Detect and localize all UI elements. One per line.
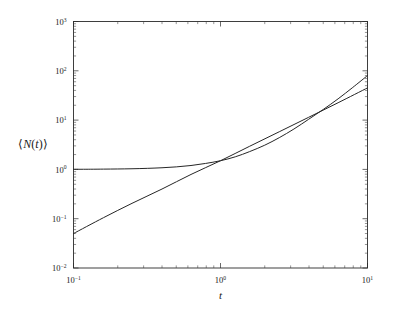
loglog-plot: 10−1100101 10310210110010−110−2 t ⟨N(t)⟩ [0,0,393,310]
y-axis-title: ⟨N(t)⟩ [18,137,47,151]
y-title-bracket-close: ⟩ [43,137,48,151]
figure-container: 10−1100101 10310210110010−110−2 t ⟨N(t)⟩ [0,0,393,310]
